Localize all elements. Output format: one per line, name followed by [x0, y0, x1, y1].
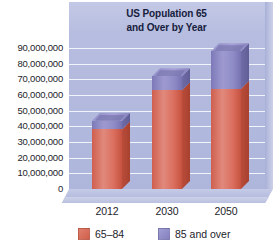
- chart-container: 90,000,00080,000,00070,000,00060,000,000…: [0, 0, 273, 248]
- y-axis-tick-label: 20,000,000: [17, 153, 63, 163]
- bar-segment-face: [211, 89, 241, 189]
- bar-segment-top-inner: [155, 70, 185, 76]
- bar-segment[interactable]: [211, 89, 241, 189]
- chart-title-line-2: and Over by Year: [104, 21, 229, 35]
- bar-segment-face: [92, 129, 122, 189]
- legend-label: 65–84: [95, 228, 124, 240]
- bar-segment[interactable]: [92, 129, 122, 189]
- bar-segment-side: [241, 43, 249, 89]
- chart-title-line-1: US Population 65: [104, 7, 229, 21]
- legend-item[interactable]: 65–84: [78, 228, 124, 240]
- bar-segment-face: [92, 121, 122, 130]
- y-axis-tick-label: 80,000,000: [17, 59, 63, 69]
- plot-floor-front: [62, 197, 273, 203]
- bar-segment-side: [241, 81, 249, 189]
- bar-segment[interactable]: [211, 51, 241, 89]
- bar-segment-side: [122, 121, 130, 189]
- legend-swatch-85-and-over: [158, 228, 170, 240]
- y-axis-tick-label: 60,000,000: [17, 90, 63, 100]
- bar-segment-top-inner: [95, 115, 125, 121]
- x-axis-tick-label: 2050: [201, 205, 251, 217]
- bar-segment-side: [182, 82, 190, 189]
- plot-side-wall: [265, 2, 273, 189]
- bar-segment-face: [211, 51, 241, 89]
- bar-segment-face: [152, 90, 182, 189]
- y-axis-tick-label: 50,000,000: [17, 106, 63, 116]
- chart-title: US Population 65 and Over by Year: [104, 7, 229, 35]
- bar-segment[interactable]: [152, 76, 182, 90]
- bar-segment[interactable]: [92, 121, 122, 130]
- y-axis-tick-label: 70,000,000: [17, 74, 63, 84]
- bar-segment-top-inner: [214, 45, 244, 51]
- y-axis-tick-label: 90,000,000: [17, 43, 63, 53]
- y-axis-tick-label: 40,000,000: [17, 121, 63, 131]
- bar-segment[interactable]: [152, 90, 182, 189]
- chart-legend: 65–8485 and over: [0, 224, 273, 246]
- x-axis-labels: 201220302050: [60, 205, 273, 221]
- y-axis-tick-label: 0: [58, 184, 63, 194]
- legend-item[interactable]: 85 and over: [158, 228, 230, 240]
- x-axis-tick-label: 2012: [82, 205, 132, 217]
- legend-label: 85 and over: [175, 228, 230, 240]
- y-axis-tick-label: 30,000,000: [17, 137, 63, 147]
- y-axis-labels: 90,000,00080,000,00070,000,00060,000,000…: [0, 0, 66, 200]
- x-axis-tick-label: 2030: [142, 205, 192, 217]
- y-axis-tick-label: 10,000,000: [17, 168, 63, 178]
- legend-swatch-65-84: [78, 228, 90, 240]
- bar-segment-face: [152, 76, 182, 90]
